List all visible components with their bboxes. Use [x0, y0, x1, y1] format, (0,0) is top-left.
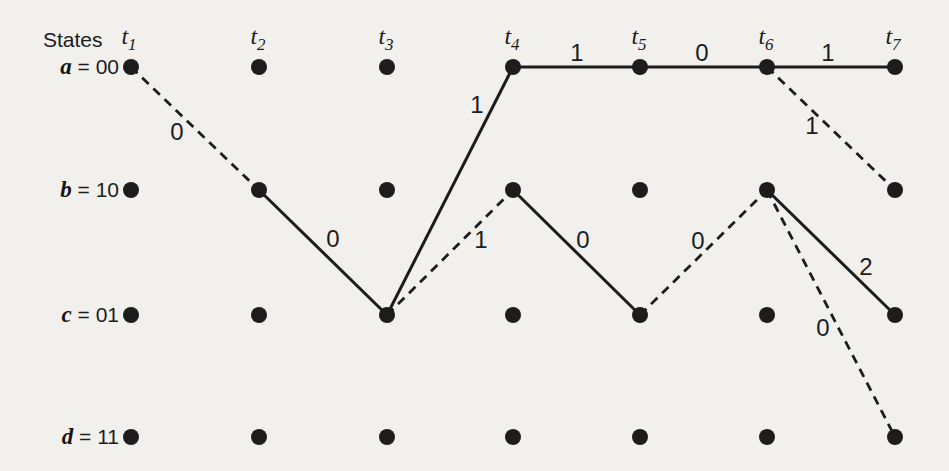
time-label-t5: t5	[631, 23, 646, 54]
edge-a6-b7	[767, 67, 895, 190]
node-b-t6	[759, 182, 775, 198]
edge-c3-a4	[387, 67, 513, 315]
node-d-t5	[632, 429, 648, 445]
node-a-t6	[759, 59, 775, 75]
time-label-t7: t7	[885, 23, 902, 54]
state-label-c: c = 01	[61, 302, 119, 327]
time-label-t1: t1	[121, 23, 136, 54]
node-c-t2	[251, 307, 267, 323]
time-label-t6-sub: 6	[765, 35, 774, 54]
node-d-t4	[505, 429, 521, 445]
time-label-t1-sub: 1	[128, 35, 137, 54]
edge-label-a6-a7: 1	[821, 39, 834, 66]
edge-label-b6-c7: 2	[859, 253, 872, 280]
node-d-t2	[251, 429, 267, 445]
trellis-diagram: States t1 t2 t3 t4 t5 t6 t7 a = 00 b = 1…	[0, 0, 949, 471]
state-label-c-bits: 01	[96, 303, 119, 326]
time-label-t3: t3	[378, 23, 393, 54]
node-b-t2	[251, 182, 267, 198]
states-heading: States	[43, 28, 103, 51]
node-a-t1	[123, 59, 139, 75]
state-label-a-letter: a	[60, 54, 72, 79]
trellis-svg: States t1 t2 t3 t4 t5 t6 t7 a = 00 b = 1…	[0, 0, 949, 471]
state-label-b-letter: b	[60, 177, 72, 202]
state-label-a-bits: 00	[96, 55, 119, 78]
state-label-c-eq: =	[72, 303, 96, 326]
time-label-t6: t6	[758, 23, 774, 54]
edge-label-c3-a4: 1	[470, 91, 483, 118]
state-label-d: d = 11	[62, 424, 119, 449]
node-a-t4	[505, 59, 521, 75]
node-b-t3	[379, 182, 395, 198]
node-d-t6	[759, 429, 775, 445]
state-label-a: a = 00	[60, 54, 119, 79]
edge-label-a4-a5: 1	[570, 39, 583, 66]
time-label-t2-sub: 2	[257, 35, 266, 54]
edge-c3-b4	[387, 190, 513, 315]
edge-label-c3-b4: 1	[474, 226, 487, 253]
node-c-t3	[379, 307, 395, 323]
node-d-t7	[887, 429, 903, 445]
edge-label-a1-b2: 0	[170, 118, 183, 145]
state-label-b: b = 10	[60, 177, 119, 202]
state-label-b-eq: =	[72, 178, 96, 201]
time-label-t4: t4	[504, 23, 520, 54]
node-a-t7	[887, 59, 903, 75]
edge-label-c5-b6: 0	[691, 227, 704, 254]
edge-label-b6-d7: 0	[816, 314, 829, 341]
edges-layer	[131, 67, 895, 437]
edge-b6-d7	[767, 190, 895, 437]
node-d-t1	[123, 429, 139, 445]
edge-b2-c3	[259, 190, 387, 315]
time-label-t2: t2	[250, 23, 266, 54]
edge-label-b4-c5: 0	[576, 226, 589, 253]
edge-label-a5-a6: 0	[695, 39, 708, 66]
edge-label-b2-c3: 0	[326, 225, 339, 252]
node-b-t5	[632, 182, 648, 198]
state-label-c-letter: c	[61, 302, 71, 327]
nodes-layer	[123, 59, 903, 445]
time-label-t7-sub: 7	[892, 35, 902, 54]
edge-b6-c7	[767, 190, 895, 315]
state-label-d-eq: =	[73, 425, 97, 448]
node-b-t7	[887, 182, 903, 198]
edge-a1-b2	[131, 67, 259, 190]
node-c-t1	[123, 307, 139, 323]
state-label-a-eq: =	[72, 55, 96, 78]
node-c-t5	[632, 307, 648, 323]
state-label-d-bits: 11	[97, 425, 119, 448]
node-c-t6	[759, 307, 775, 323]
node-a-t3	[379, 59, 395, 75]
time-label-t3-sub: 3	[384, 35, 394, 54]
state-label-b-bits: 10	[96, 178, 119, 201]
node-c-t7	[887, 307, 903, 323]
time-label-t5-sub: 5	[638, 35, 647, 54]
node-a-t2	[251, 59, 267, 75]
node-b-t1	[123, 182, 139, 198]
node-c-t4	[505, 307, 521, 323]
node-d-t3	[379, 429, 395, 445]
time-label-t4-sub: 4	[511, 35, 520, 54]
node-a-t5	[632, 59, 648, 75]
state-label-d-letter: d	[62, 424, 74, 449]
state-labels: a = 00 b = 10 c = 01 d = 11	[60, 54, 119, 449]
node-b-t4	[505, 182, 521, 198]
edge-label-a6-b7: 1	[805, 112, 818, 139]
time-labels: t1 t2 t3 t4 t5 t6 t7	[121, 23, 902, 54]
